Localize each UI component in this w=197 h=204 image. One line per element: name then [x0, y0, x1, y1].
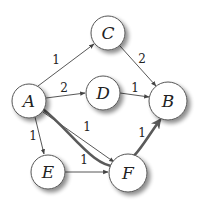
edge-weight-a-c: 1 [52, 53, 60, 67]
edge-weight-d-b: 1 [131, 81, 139, 95]
edge-weight-a-f: 1 [83, 120, 91, 134]
node-a[interactable]: A [12, 84, 46, 118]
node-label-a: A [21, 91, 35, 111]
edge-a-c [38, 44, 94, 86]
graph-diagram: C A D B E F 1 2 2 1 1 1 1 1 [0, 0, 197, 204]
edge-weight-e-f: 1 [80, 153, 88, 167]
node-c[interactable]: C [91, 16, 125, 50]
node-label-b: B [161, 91, 175, 111]
edge-weight-a-d: 2 [60, 81, 68, 95]
node-d[interactable]: D [86, 76, 120, 110]
node-label-e: E [41, 162, 55, 182]
edge-weight-c-b: 2 [138, 52, 146, 66]
node-e[interactable]: E [31, 155, 65, 189]
node-b[interactable]: B [149, 82, 187, 120]
edge-weight-f-b: 1 [138, 126, 146, 140]
node-label-c: C [101, 23, 114, 43]
edge-labels: 1 2 2 1 1 1 1 1 [29, 52, 146, 167]
node-label-d: D [95, 83, 110, 103]
nodes: C A D B E F [12, 16, 187, 192]
edge-weight-a-e: 1 [29, 129, 37, 143]
node-f[interactable]: F [109, 154, 147, 192]
node-label-f: F [121, 163, 135, 183]
